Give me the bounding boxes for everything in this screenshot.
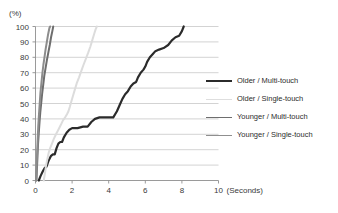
legend-label: Older / Multi-touch [237,77,298,85]
legend-item[interactable]: Older / Multi-touch [206,72,338,90]
x-tick-label: 10 [214,186,223,195]
chart-container: (%) 1009080706050403020100 0246810(Secon… [0,0,338,213]
legend-label: Younger / Single-touch [237,131,313,139]
chart-legend: Older / Multi-touchOlder / Single-touchY… [206,72,338,144]
x-tick-label: 6 [143,186,147,195]
legend-swatch-line-icon [206,99,232,100]
x-tick-label: 4 [106,186,110,195]
x-tick-label: 0 [33,186,37,195]
legend-item[interactable]: Younger / Multi-touch [206,108,338,126]
legend-swatch-line-icon [206,80,232,82]
legend-label: Younger / Multi-touch [237,113,308,121]
legend-item[interactable]: Older / Single-touch [206,90,338,108]
legend-swatch-line-icon [206,135,232,136]
x-tick-label: 8 [180,186,184,195]
legend-swatch-line-icon [206,117,232,118]
x-axis-unit-label: (Seconds) [227,186,263,195]
x-tick-label: 2 [70,186,74,195]
legend-item[interactable]: Younger / Single-touch [206,126,338,144]
legend-label: Older / Single-touch [237,95,303,103]
